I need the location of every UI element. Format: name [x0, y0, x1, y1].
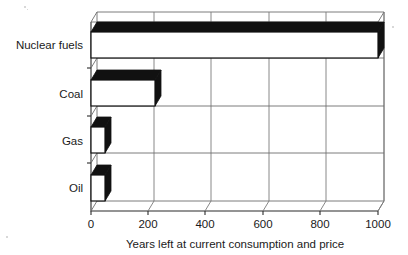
- x-axis-ticks: [91, 211, 378, 215]
- x-tick-label-0: 0: [88, 218, 94, 230]
- x-tick-label-400: 400: [195, 218, 214, 230]
- category-label-gas: Gas: [62, 135, 83, 147]
- bar-chart: Nuclear fuels Coal Gas Oil 0 200 400 600…: [0, 0, 408, 255]
- bar-nuclear-fuels: [91, 22, 384, 58]
- bar-gas: [91, 117, 111, 153]
- x-axis-title: Years left at current consumption and pr…: [126, 238, 344, 250]
- bar-oil: [91, 165, 111, 201]
- category-label-coal: Coal: [59, 88, 83, 100]
- x-tick-label-1000: 1000: [365, 218, 391, 230]
- x-tick-label-600: 600: [253, 218, 272, 230]
- x-tick-label-200: 200: [138, 218, 157, 230]
- category-label-oil: Oil: [69, 182, 83, 194]
- category-label-nuclear-fuels: Nuclear fuels: [16, 39, 83, 51]
- chart-canvas: Nuclear fuels Coal Gas Oil 0 200 400 600…: [0, 0, 408, 255]
- bar-coal: [91, 70, 161, 106]
- x-tick-label-800: 800: [310, 218, 329, 230]
